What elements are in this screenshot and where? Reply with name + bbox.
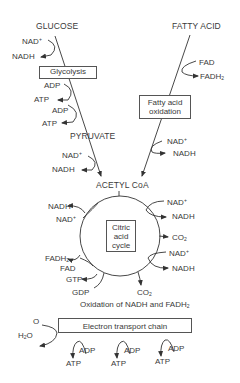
- cycle-left-nadh-out: NADH: [48, 202, 71, 211]
- cycle-fad-in: FAD: [60, 264, 76, 273]
- fatty-acid-oxidation-box: Fatty acid oxidation: [139, 95, 191, 119]
- citric-line2: acid: [107, 232, 135, 241]
- cycle-right-co2: CO2: [172, 233, 187, 242]
- fatty-acid-fadh2-out: FADH2: [200, 72, 224, 81]
- water-label: H2O: [18, 331, 33, 340]
- cycle-right-nadh-out-2: NADH: [172, 264, 195, 273]
- acetyl-coa-label: ACETYL CoA: [96, 181, 149, 190]
- citric-acid-cycle-box: Citric acid cycle: [106, 220, 136, 252]
- oxidation-caption: Oxidation of NADH and FADH2: [80, 300, 190, 309]
- glycolysis-adp-in-1: ADP: [44, 81, 60, 90]
- glycolysis-adp-in-2: ADP: [52, 106, 68, 115]
- fatty-acid-nad-in: NAD+: [167, 137, 187, 146]
- glycolysis-atp-out-2: ATP: [42, 119, 57, 128]
- cycle-gtp-out: GTP: [66, 275, 82, 284]
- cycle-left-nad-in: NAD+: [56, 215, 76, 224]
- fatty-acid-label: FATTY ACID: [172, 22, 221, 31]
- etc-atp-out-3: ATP: [155, 357, 170, 366]
- metabolism-diagram: GLUCOSE FATTY ACID NAD+ NADH Glycolysis …: [0, 0, 240, 383]
- cycle-right-nadh-out-1: NADH: [172, 212, 195, 221]
- glycolysis-nad-in: NAD+: [22, 37, 42, 46]
- fatty-acid-fad-in: FAD: [199, 58, 215, 67]
- citric-line3: cycle: [107, 241, 135, 250]
- glycolysis-box: Glycolysis: [39, 66, 97, 79]
- citric-line1: Citric: [107, 223, 135, 232]
- pyruvate-nadh-out: NADH: [52, 165, 75, 174]
- etc-adp-in-3: ADP: [168, 344, 184, 353]
- cycle-right-nad-in-2: NAD+: [169, 249, 189, 258]
- electron-transport-chain-box: Electron transport chain: [58, 318, 192, 333]
- etc-atp-out-1: ATP: [66, 359, 81, 368]
- fatty-acid-oxidation-line2: oxidation: [140, 107, 190, 116]
- etc-adp-in-1: ADP: [79, 346, 95, 355]
- glycolysis-atp-out-1: ATP: [34, 95, 49, 104]
- pyruvate-nad-in: NAD+: [62, 151, 82, 160]
- etc-atp-out-2: ATP: [111, 359, 126, 368]
- etc-adp-in-2: ADP: [124, 346, 140, 355]
- cycle-right-nad-in-1: NAD+: [167, 198, 187, 207]
- pyruvate-label: PYRUVATE: [70, 132, 115, 141]
- glucose-label: GLUCOSE: [36, 22, 78, 31]
- fatty-acid-nadh-out: NADH: [173, 149, 196, 158]
- cycle-bottom-co2: CO2: [137, 288, 152, 297]
- cycle-fadh2-out: FADH2: [45, 254, 69, 263]
- fatty-acid-oxidation-line1: Fatty acid: [140, 98, 190, 107]
- glycolysis-nadh-out: NADH: [12, 52, 35, 61]
- cycle-gdp-in: GDP: [72, 288, 89, 297]
- oxygen-label: O: [33, 317, 39, 326]
